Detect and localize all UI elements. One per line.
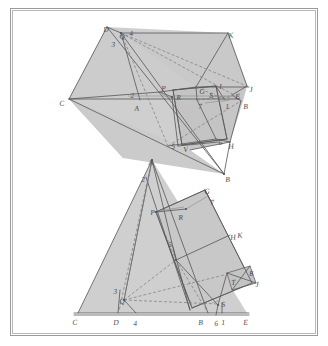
vertex-label-7-3: 7 — [210, 199, 214, 207]
vertex-label-c-5: C — [59, 100, 65, 108]
vertex-label-r-9: R — [176, 94, 181, 102]
vertex-label-7-16: 7 — [198, 103, 202, 111]
dot-R — [185, 208, 187, 210]
vertex-label-p-4: P — [150, 209, 155, 217]
vertex-label-v-19: V — [183, 146, 188, 154]
vertex-label-3-12: 3 — [113, 288, 117, 296]
vertex-label-e-13: E — [235, 93, 240, 101]
vertex-label-i-12: I — [219, 83, 222, 91]
vertex-label-2-1: 2 — [141, 176, 145, 184]
vertex-label-b-22: B — [225, 176, 230, 184]
vertex-label-6-20: 6 — [218, 139, 222, 147]
vertex-label-h-6: H — [230, 234, 236, 242]
vertex-label-g-2: G — [204, 188, 210, 196]
vertex-label-s-11: S — [209, 92, 213, 100]
vertex-label-g-10: G — [199, 88, 205, 96]
vertex-label-3-3: 3 — [111, 41, 115, 49]
vertex-label-k-4: K — [228, 32, 234, 40]
vertex-label-b-18: B — [198, 319, 203, 327]
vertex-label-s-14: S — [221, 301, 225, 309]
vertex-label-5-18: 5 — [171, 143, 175, 151]
vertex-label-6-19: 6 — [214, 320, 218, 328]
vertex-label-d-16: D — [113, 319, 119, 327]
vertex-label-j-11: J — [255, 281, 259, 289]
vertex-label-1-17: 1 — [225, 103, 229, 111]
vertex-label-a-0: A — [148, 159, 153, 167]
dot-R — [171, 96, 173, 98]
vertex-label-1-20: 1 — [221, 319, 225, 327]
vertex-label-2-6: 2 — [130, 92, 134, 100]
vertex-label-8-9: 8 — [249, 270, 253, 278]
vertex-label-j-14: J — [249, 86, 253, 94]
vertex-label-r-5: R — [178, 214, 183, 222]
vertex-label-c-15: C — [72, 319, 78, 327]
upper-figure — [69, 27, 249, 175]
drawing-page: DQ43KC2APRGSIEJB715V6HB A2G7PRHK58TJ3QSC… — [0, 0, 328, 346]
dot-5 — [175, 259, 177, 261]
vertex-label-k-7: K — [237, 232, 243, 240]
vertex-label-q-1: Q — [119, 33, 125, 41]
vertex-label-e-21: E — [243, 319, 248, 327]
dot-S — [217, 304, 219, 306]
vertex-label-4-17: 4 — [133, 320, 137, 328]
vertex-label-p-8: P — [161, 85, 166, 93]
vertex-label-b-15: B — [243, 103, 248, 111]
vertex-label-5-8: 5 — [168, 241, 172, 249]
vertex-label-d-0: D — [103, 26, 109, 34]
vertex-label-a-7: A — [134, 105, 139, 113]
vertex-label-t-10: T — [231, 279, 236, 287]
vertex-label-h-21: H — [228, 143, 234, 151]
vertex-label-q-13: Q — [119, 298, 125, 306]
geometry-artwork — [0, 0, 328, 346]
vertex-label-4-2: 4 — [129, 30, 133, 38]
